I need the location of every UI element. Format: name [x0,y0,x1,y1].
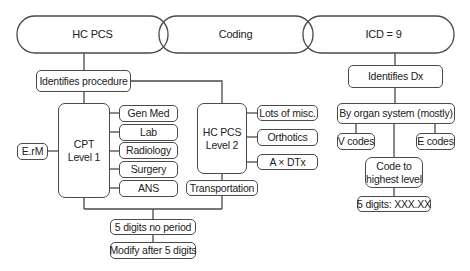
cpt-category-radiology: Radiology [119,142,178,159]
v-codes-box: V codes [337,133,375,150]
header-icd-label: ICD = 9 [313,28,454,40]
erm-box: E.rM [17,143,48,160]
cpt-level-label: Level 1 [68,151,100,163]
e-codes-box: E codes [416,133,455,150]
cpt-label: CPT [74,138,94,150]
hcpcs-level2-level-label: Level 2 [206,139,238,151]
hcpcs-level2-box: HC PCS Level 2 [197,103,247,174]
cpt-level1-box: CPT Level 1 [58,103,110,198]
identifies-dx-box: Identifies Dx [348,65,443,88]
modify-after-five-digits-box: Modify after 5 digits [110,242,196,259]
code-to-label: Code to [376,160,411,172]
cpt-category-gen-med: Gen Med [119,105,178,122]
level2-category-axdtx: A × DTx [257,154,318,170]
level2-category-orthotics: Orthotics [257,129,318,146]
five-digits-no-period-box: 5 digits no period [110,219,196,235]
header-coding-label: Coding [168,28,303,40]
highest-level-label: highest level [366,173,422,185]
identifies-procedure-box: Identifies procedure [36,70,131,92]
cpt-category-lab: Lab [119,124,178,141]
cpt-category-surgery: Surgery [119,161,178,178]
header-hcpcs-label: HC PCS [17,28,168,40]
transportation-box: Transportation [186,180,258,196]
hcpcs-level2-label: HC PCS [203,126,241,138]
level2-category-lots-of-misc: Lots of misc. [257,105,318,121]
coding-diagram: HC PCS Coding ICD = 9 Identifies procedu… [0,0,470,271]
by-organ-system-box: By organ system (mostly) [337,103,455,124]
cpt-category-ans: ANS [119,180,178,197]
code-to-highest-level-box: Code to highest level [365,157,423,188]
five-digits-xxx-xx-box: 5 digits: XXX.XX [357,196,431,212]
